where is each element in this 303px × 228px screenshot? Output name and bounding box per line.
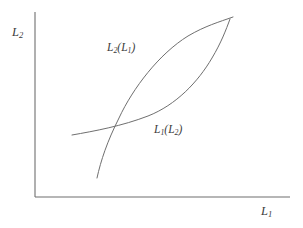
curve-label-l1-of-l2: L1(L2) xyxy=(154,124,182,137)
x-axis-label-main: L xyxy=(261,204,268,218)
y-axis-label-subscript: 2 xyxy=(19,30,23,40)
x-axis-label: L1 xyxy=(261,205,272,219)
y-axis-label-main: L xyxy=(12,25,19,39)
figure-container: L2 L1 L2(L1) L1(L2) xyxy=(0,0,303,228)
curve-label-upper-paren-close: ) xyxy=(131,41,135,53)
curve-label-lower-paren-close: ) xyxy=(178,123,182,135)
curve-l1-of-l2 xyxy=(72,19,230,135)
curves-group xyxy=(72,17,233,178)
x-axis-label-subscript: 1 xyxy=(268,209,272,219)
curve-label-l2-of-l1: L2(L1) xyxy=(107,42,135,55)
axes-group xyxy=(35,12,290,197)
figure-svg xyxy=(0,0,303,228)
y-axis-label: L2 xyxy=(12,26,23,40)
